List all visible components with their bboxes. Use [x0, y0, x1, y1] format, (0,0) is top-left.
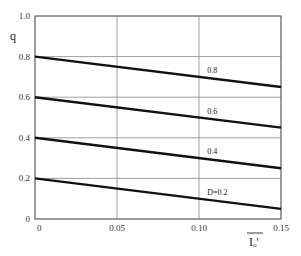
y-tick-label: 1.0	[19, 11, 31, 21]
chart: 0.80.60.4D=0.2 00.20.40.60.81.0 00.050.1…	[0, 0, 301, 256]
y-tick-label: 0.6	[19, 92, 31, 102]
x-axis-ticks: 00.050.100.15	[37, 223, 289, 233]
series-line-0.4	[35, 138, 281, 168]
series-line-0.6	[35, 97, 281, 127]
grid	[35, 16, 281, 219]
x-tick-label: 0	[37, 223, 42, 233]
plot-frame	[35, 16, 281, 219]
series-label: 0.6	[207, 107, 217, 116]
y-tick-label: 0.8	[19, 52, 31, 62]
y-tick-label: 0	[26, 214, 31, 224]
series-label: 0.4	[207, 147, 217, 156]
x-tick-label: 0.10	[191, 223, 207, 233]
series-label: D=0.2	[207, 188, 227, 197]
series-line-0.8	[35, 57, 281, 87]
x-tick-label: 0.05	[109, 223, 125, 233]
y-axis-ticks: 00.20.40.60.81.0	[19, 11, 31, 224]
series-label: 0.8	[207, 66, 217, 75]
series-line-0.2	[35, 178, 281, 208]
x-axis-label: Iₒ'	[249, 235, 259, 249]
series-layer: 0.80.60.4D=0.2	[35, 57, 281, 209]
y-tick-label: 0.2	[19, 173, 30, 183]
y-axis-label: q	[10, 29, 16, 43]
y-tick-label: 0.4	[19, 133, 31, 143]
x-tick-label: 0.15	[273, 223, 289, 233]
x-axis-label-group: Iₒ'	[247, 233, 263, 249]
